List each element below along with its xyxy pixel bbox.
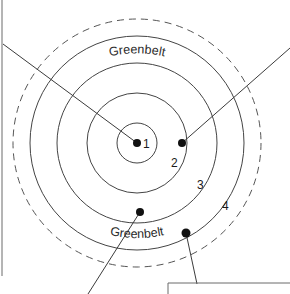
leader-line-upper-left — [3, 44, 137, 143]
greenbelt-label-top: Greenbelt — [108, 42, 167, 59]
leader-line-upper-right — [182, 48, 290, 143]
diagram-canvas: 1 2 3 4 Greenbelt Greenbelt — [0, 0, 290, 294]
zone-label-3: 3 — [197, 178, 204, 192]
greenbelt-label-top-text: Greenbelt — [108, 42, 167, 59]
site-dot-centre — [133, 139, 141, 147]
greenbelt-label-bottom-text: Greenbelt — [109, 224, 165, 241]
zone-label-4: 4 — [222, 199, 229, 213]
zone-label-1: 1 — [143, 137, 150, 151]
zone-label-2: 2 — [171, 156, 178, 170]
leader-line-lower-right — [186, 233, 197, 284]
callout-box — [168, 283, 290, 294]
concentric-zone-diagram: 1 2 3 4 Greenbelt Greenbelt — [0, 0, 290, 294]
site-dot-lower-left — [136, 208, 144, 216]
site-dot-lower-right — [182, 229, 191, 238]
site-dot-upper-right — [178, 139, 186, 147]
greenbelt-label-bottom: Greenbelt — [109, 224, 165, 241]
leader-line-lower-left — [88, 212, 140, 294]
